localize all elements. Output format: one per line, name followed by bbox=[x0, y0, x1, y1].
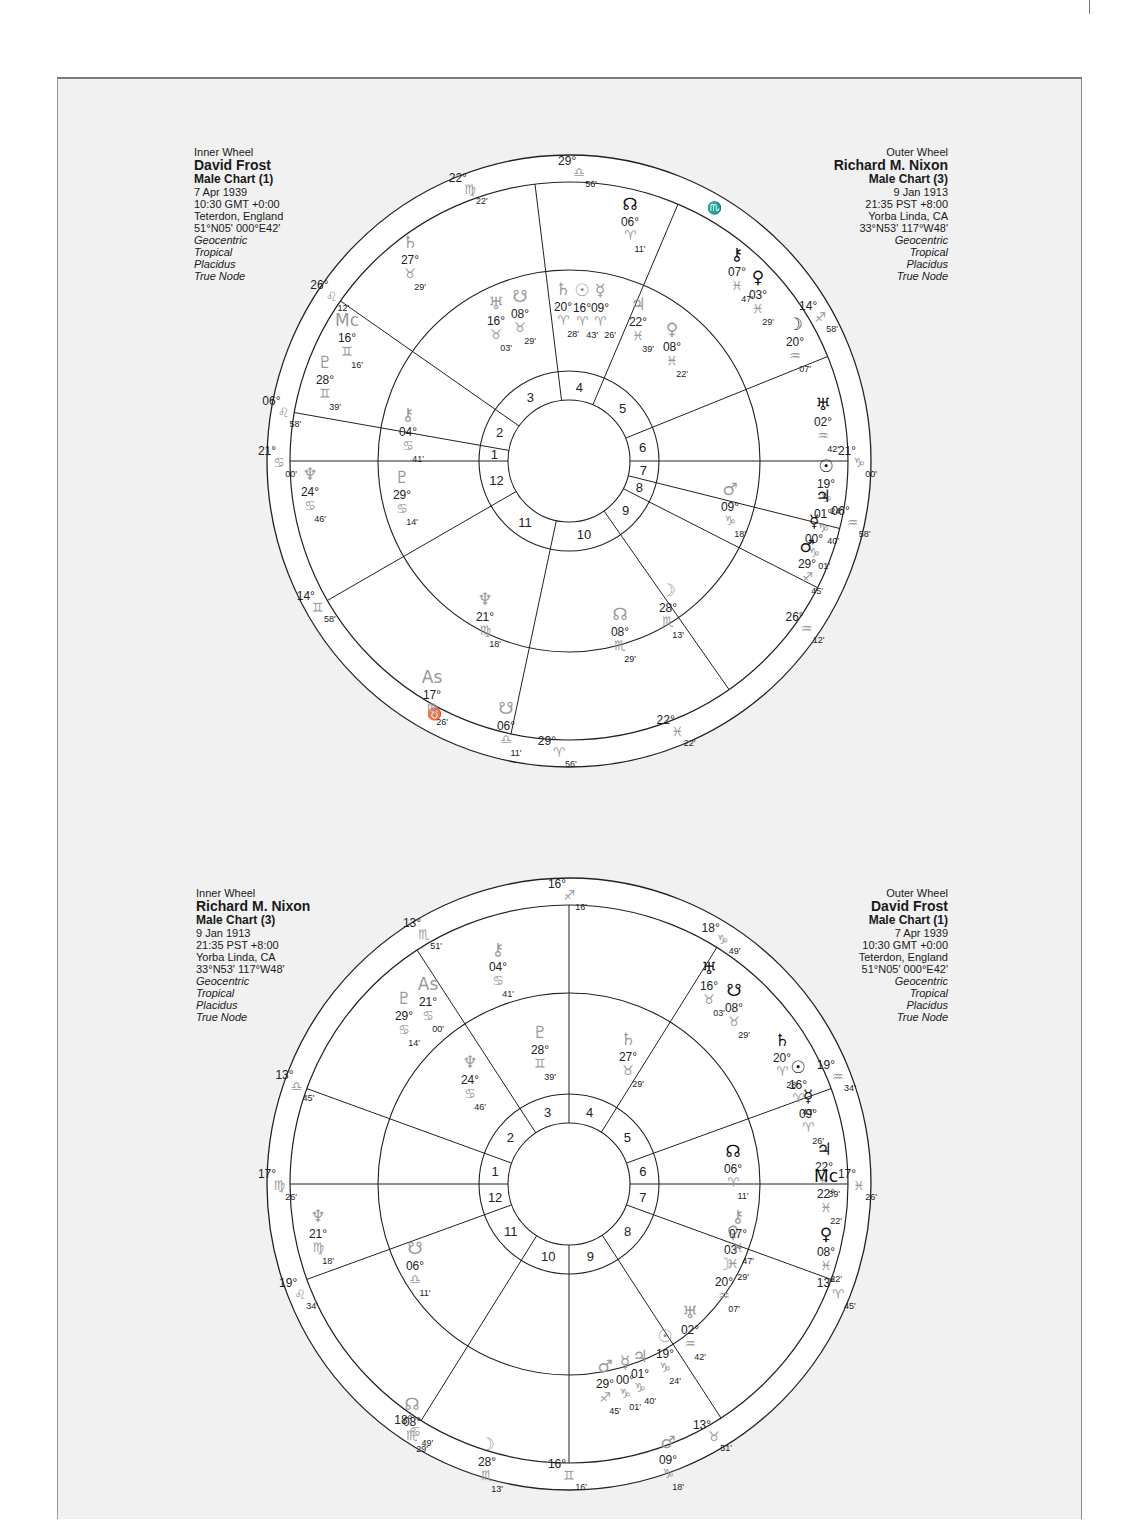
planet-sign: ♓ bbox=[732, 1240, 744, 1255]
moon-2-icon: ☽ bbox=[716, 1254, 731, 1274]
planet-sign: ♏ bbox=[406, 1428, 418, 1443]
planet-minutes: 24' bbox=[669, 1376, 681, 1386]
planet-sign: ♋ bbox=[492, 973, 504, 988]
planet-sign: ♍ bbox=[312, 1240, 324, 1255]
moon-icon: ☽ bbox=[479, 1434, 494, 1454]
wheel-bottom: 12345678910111217°♍26'13°♎45'13°♏51'16°♐… bbox=[258, 877, 877, 1494]
planet-minutes: 39' bbox=[544, 1072, 556, 1082]
planet-sign: ♉ bbox=[728, 1014, 740, 1029]
center-hub bbox=[508, 1123, 630, 1245]
house-number-7: 7 bbox=[639, 1190, 646, 1205]
south-node-icon: ☋ bbox=[407, 1238, 422, 1258]
planet-sign: ♈ bbox=[802, 1120, 814, 1135]
house-number-10: 10 bbox=[541, 1249, 555, 1264]
sun-icon: ☉ bbox=[790, 1057, 805, 1077]
svg-text:♍: ♍ bbox=[273, 1178, 285, 1193]
house-number-11: 11 bbox=[504, 1224, 518, 1239]
mars-icon: ♂ bbox=[597, 1356, 612, 1376]
planet-sign: ♓ bbox=[820, 1258, 832, 1273]
bi-wheel-chart-bottom: 12345678910111217°♍26'13°♎45'13°♏51'16°♐… bbox=[0, 0, 1141, 1534]
planet-degree: 06° bbox=[724, 1162, 742, 1176]
svg-text:16': 16' bbox=[575, 1482, 587, 1492]
mars-2-icon: ♂ bbox=[660, 1432, 675, 1452]
planet-sign: ♉ bbox=[703, 992, 715, 1007]
neptune-icon: ♆ bbox=[310, 1206, 325, 1226]
planet-minutes: 01' bbox=[629, 1402, 641, 1412]
planet-minutes: 45' bbox=[609, 1406, 621, 1416]
planet-degree: 29° bbox=[596, 1377, 614, 1391]
planet-minutes: 29' bbox=[416, 1444, 428, 1454]
house-number-5: 5 bbox=[624, 1130, 631, 1145]
house-number-2: 2 bbox=[507, 1130, 514, 1145]
planet-sign: ♑ bbox=[634, 1380, 646, 1395]
planet-degree: 21° bbox=[309, 1227, 327, 1241]
svg-text:16': 16' bbox=[575, 902, 587, 912]
sun-icon: ☉ bbox=[657, 1326, 672, 1346]
planet-degree: 20° bbox=[773, 1051, 791, 1065]
svg-text:34': 34' bbox=[306, 1301, 318, 1311]
svg-text:♒: ♒ bbox=[832, 1069, 844, 1084]
planet-minutes: 18' bbox=[672, 1482, 684, 1492]
svg-text:♑: ♑ bbox=[717, 932, 729, 947]
planet-degree: 16° bbox=[700, 979, 718, 993]
planet-minutes: 40' bbox=[644, 1396, 656, 1406]
planet-degree: 28° bbox=[531, 1043, 549, 1057]
planet-sign: ♑ bbox=[662, 1466, 674, 1481]
planet-minutes: 47' bbox=[742, 1256, 754, 1266]
planet-sign: ♎ bbox=[409, 1272, 421, 1287]
planet-degree: 21° bbox=[419, 995, 437, 1009]
pluto-icon: ♇ bbox=[396, 988, 411, 1008]
svg-text:♎: ♎ bbox=[291, 1079, 303, 1094]
planet-sign: ♋ bbox=[422, 1008, 434, 1023]
planet-degree: 09° bbox=[659, 1453, 677, 1467]
venus-icon: ♀ bbox=[820, 1224, 832, 1244]
planet-sign: ♏ bbox=[481, 1468, 493, 1483]
chiron-2-icon: ⚷ bbox=[732, 1206, 744, 1226]
svg-text:♈: ♈ bbox=[832, 1287, 844, 1302]
mercury-icon: ☿ bbox=[803, 1086, 813, 1106]
svg-text:45': 45' bbox=[303, 1093, 315, 1103]
svg-text:26': 26' bbox=[865, 1192, 877, 1202]
planet-minutes: 00' bbox=[432, 1024, 444, 1034]
planet-degree: 28° bbox=[478, 1455, 496, 1469]
planet-degree: 00° bbox=[616, 1373, 634, 1387]
planet-degree: 06° bbox=[406, 1259, 424, 1273]
planet-minutes: 13' bbox=[491, 1484, 503, 1494]
planet-sign: ♈ bbox=[776, 1064, 788, 1079]
house-number-3: 3 bbox=[544, 1105, 551, 1120]
planet-degree: 09° bbox=[799, 1107, 817, 1121]
planet-minutes: 18' bbox=[322, 1256, 334, 1266]
uranus-icon: ♅ bbox=[701, 958, 716, 978]
svg-text:♐: ♐ bbox=[563, 888, 575, 903]
planet-sign: ♈ bbox=[727, 1175, 739, 1190]
planet-sign: ♑ bbox=[619, 1386, 631, 1401]
svg-text:51': 51' bbox=[430, 941, 442, 951]
svg-text:26': 26' bbox=[285, 1192, 297, 1202]
south-node-icon: ☋ bbox=[726, 980, 741, 1000]
planet-degree: 08° bbox=[725, 1001, 743, 1015]
chiron-icon: ⚷ bbox=[492, 939, 504, 959]
svg-text:45': 45' bbox=[844, 1301, 856, 1311]
north-node-icon: ☊ bbox=[725, 1141, 740, 1161]
planet-degree: 04° bbox=[489, 960, 507, 974]
planet-minutes: 29' bbox=[737, 1272, 749, 1282]
svg-text:34': 34' bbox=[844, 1083, 856, 1093]
svg-text:♌: ♌ bbox=[294, 1287, 306, 1302]
planet-minutes: 07' bbox=[728, 1304, 740, 1314]
planet-minutes: 11' bbox=[737, 1191, 748, 1201]
saturn-icon: ♄ bbox=[620, 1029, 635, 1049]
planet-minutes: 14' bbox=[408, 1038, 420, 1048]
planet-sign: ♓ bbox=[820, 1200, 832, 1215]
planet-minutes: 42' bbox=[694, 1352, 706, 1362]
planet-sign: ♋ bbox=[464, 1086, 476, 1101]
jupiter-icon: ♃ bbox=[816, 1139, 831, 1159]
planet-degree: 20° bbox=[715, 1275, 733, 1289]
planet-sign: ♐ bbox=[599, 1390, 611, 1405]
planet-sign: ♒ bbox=[718, 1288, 730, 1303]
svg-text:♉: ♉ bbox=[708, 1429, 720, 1444]
house-number-6: 6 bbox=[639, 1164, 646, 1179]
uranus-icon: ♅ bbox=[682, 1302, 697, 1322]
svg-text:♓: ♓ bbox=[853, 1178, 865, 1193]
planet-sign: ♊ bbox=[534, 1056, 546, 1071]
planet-minutes: 22' bbox=[830, 1274, 842, 1284]
